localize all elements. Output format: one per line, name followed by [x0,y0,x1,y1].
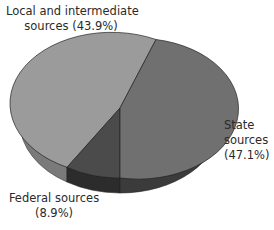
label-federal-line2: (8.9%) [6,206,102,221]
label-local-line2: sources (43.9%) [6,19,136,34]
label-local-sources: Local and intermediate sources (43.9%) [6,4,136,34]
label-federal-line1: Federal sources [6,191,102,206]
label-federal-sources: Federal sources (8.9%) [6,191,102,221]
label-state-line2: sources [224,133,274,148]
label-local-line1: Local and intermediate [6,4,136,19]
label-state-sources: State sources (47.1%) [224,118,274,163]
label-state-line3: (47.1%) [224,148,274,163]
label-state-line1: State [224,118,274,133]
